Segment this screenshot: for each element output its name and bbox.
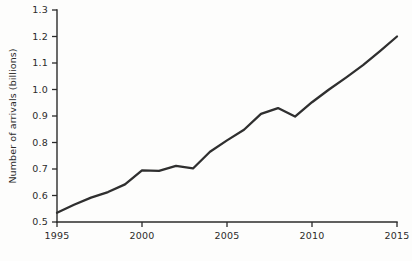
y-tick-label: 0.8 [32, 137, 48, 148]
x-axis-tick-labels: 19952000200520102015 [45, 230, 410, 241]
y-tick-label: 0.7 [32, 163, 48, 174]
x-tick-label: 2015 [385, 230, 410, 241]
series-line-international-tourist-arrivals [57, 37, 397, 213]
line-chart: 0.50.60.70.80.91.01.11.21.3 199520002005… [0, 0, 412, 261]
y-tick-label: 1.0 [32, 84, 48, 95]
y-tick-label: 0.6 [32, 190, 48, 201]
y-axis-ticks [52, 10, 57, 222]
y-axis-tick-labels: 0.50.60.70.80.91.01.11.21.3 [32, 4, 48, 227]
data-series-group [57, 37, 397, 213]
x-tick-label: 2010 [300, 230, 325, 241]
x-tick-label: 1995 [45, 230, 70, 241]
y-axis-title: Number of arrivals (billions) [7, 48, 18, 183]
x-axis-ticks [57, 222, 397, 227]
y-tick-label: 0.9 [32, 110, 48, 121]
y-tick-label: 1.2 [32, 31, 48, 42]
chart-figure: 0.50.60.70.80.91.01.11.21.3 199520002005… [0, 0, 412, 261]
y-tick-label: 1.3 [32, 4, 48, 15]
y-tick-label: 0.5 [32, 216, 48, 227]
x-tick-label: 2005 [215, 230, 240, 241]
x-tick-label: 2000 [130, 230, 155, 241]
y-axis-title-text: Number of arrivals (billions) [7, 48, 18, 183]
y-tick-label: 1.1 [32, 57, 48, 68]
